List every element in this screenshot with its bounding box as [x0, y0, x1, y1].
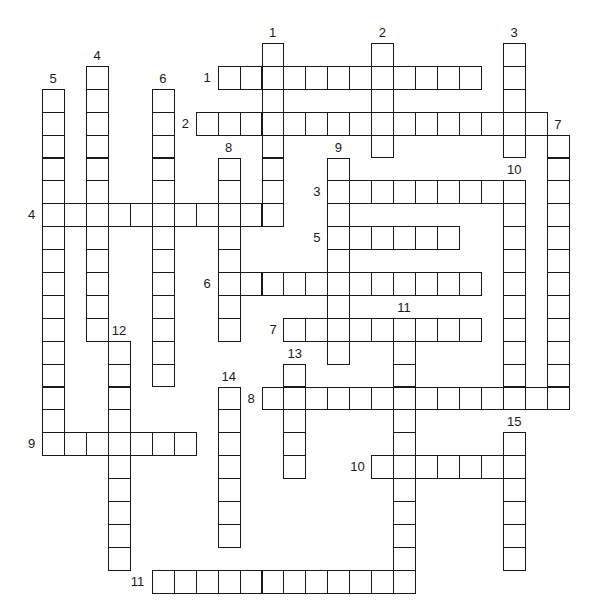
grid-cell[interactable]	[86, 180, 109, 204]
grid-cell[interactable]	[262, 135, 285, 159]
grid-cell[interactable]	[503, 112, 526, 136]
grid-cell[interactable]	[503, 203, 526, 227]
grid-cell[interactable]	[547, 158, 570, 182]
grid-cell[interactable]	[218, 387, 241, 411]
grid-cell[interactable]	[152, 318, 175, 342]
grid-cell[interactable]	[327, 112, 350, 136]
grid-cell[interactable]	[218, 158, 241, 182]
grid-cell[interactable]	[371, 570, 394, 594]
grid-cell[interactable]	[262, 66, 285, 90]
grid-cell[interactable]	[349, 112, 372, 136]
grid-cell[interactable]	[349, 180, 372, 204]
grid-cell[interactable]	[262, 570, 285, 594]
grid-cell[interactable]	[393, 180, 416, 204]
grid-cell[interactable]	[371, 112, 394, 136]
grid-cell[interactable]	[393, 501, 416, 525]
grid-cell[interactable]	[393, 66, 416, 90]
grid-cell[interactable]	[42, 295, 65, 319]
grid-cell[interactable]	[283, 112, 306, 136]
grid-cell[interactable]	[525, 387, 548, 411]
grid-cell[interactable]	[86, 432, 109, 456]
grid-cell[interactable]	[152, 112, 175, 136]
grid-cell[interactable]	[327, 570, 350, 594]
grid-cell[interactable]	[283, 570, 306, 594]
grid-cell[interactable]	[108, 409, 131, 433]
grid-cell[interactable]	[371, 318, 394, 342]
grid-cell[interactable]	[305, 66, 328, 90]
grid-cell[interactable]	[42, 272, 65, 296]
grid-cell[interactable]	[503, 455, 526, 479]
grid-cell[interactable]	[393, 272, 416, 296]
grid-cell[interactable]	[218, 272, 241, 296]
grid-cell[interactable]	[262, 180, 285, 204]
grid-cell[interactable]	[503, 89, 526, 113]
grid-cell[interactable]	[547, 180, 570, 204]
grid-cell[interactable]	[503, 66, 526, 90]
grid-cell[interactable]	[218, 226, 241, 250]
grid-cell[interactable]	[459, 318, 482, 342]
grid-cell[interactable]	[349, 272, 372, 296]
grid-cell[interactable]	[459, 112, 482, 136]
grid-cell[interactable]	[152, 341, 175, 365]
grid-cell[interactable]	[547, 387, 570, 411]
grid-cell[interactable]	[196, 112, 219, 136]
grid-cell[interactable]	[152, 295, 175, 319]
grid-cell[interactable]	[459, 455, 482, 479]
grid-cell[interactable]	[437, 112, 460, 136]
grid-cell[interactable]	[283, 387, 306, 411]
grid-cell[interactable]	[547, 295, 570, 319]
grid-cell[interactable]	[42, 89, 65, 113]
grid-cell[interactable]	[327, 295, 350, 319]
grid-cell[interactable]	[525, 112, 548, 136]
grid-cell[interactable]	[42, 158, 65, 182]
grid-cell[interactable]	[547, 249, 570, 273]
grid-cell[interactable]	[130, 203, 153, 227]
grid-cell[interactable]	[218, 478, 241, 502]
grid-cell[interactable]	[42, 318, 65, 342]
grid-cell[interactable]	[349, 318, 372, 342]
grid-cell[interactable]	[415, 112, 438, 136]
grid-cell[interactable]	[283, 364, 306, 388]
grid-cell[interactable]	[547, 318, 570, 342]
grid-cell[interactable]	[283, 272, 306, 296]
grid-cell[interactable]	[152, 249, 175, 273]
grid-cell[interactable]	[86, 272, 109, 296]
grid-cell[interactable]	[108, 501, 131, 525]
grid-cell[interactable]	[305, 570, 328, 594]
grid-cell[interactable]	[174, 570, 197, 594]
grid-cell[interactable]	[196, 570, 219, 594]
grid-cell[interactable]	[349, 387, 372, 411]
grid-cell[interactable]	[86, 89, 109, 113]
grid-cell[interactable]	[108, 432, 131, 456]
grid-cell[interactable]	[393, 318, 416, 342]
grid-cell[interactable]	[481, 180, 504, 204]
grid-cell[interactable]	[503, 272, 526, 296]
grid-cell[interactable]	[262, 387, 285, 411]
grid-cell[interactable]	[481, 387, 504, 411]
grid-cell[interactable]	[437, 387, 460, 411]
grid-cell[interactable]	[415, 180, 438, 204]
grid-cell[interactable]	[415, 318, 438, 342]
grid-cell[interactable]	[503, 318, 526, 342]
grid-cell[interactable]	[393, 364, 416, 388]
grid-cell[interactable]	[218, 455, 241, 479]
grid-cell[interactable]	[371, 387, 394, 411]
grid-cell[interactable]	[503, 478, 526, 502]
grid-cell[interactable]	[437, 272, 460, 296]
grid-cell[interactable]	[86, 112, 109, 136]
grid-cell[interactable]	[393, 478, 416, 502]
grid-cell[interactable]	[218, 66, 241, 90]
grid-cell[interactable]	[86, 318, 109, 342]
grid-cell[interactable]	[503, 180, 526, 204]
grid-cell[interactable]	[393, 226, 416, 250]
grid-cell[interactable]	[481, 455, 504, 479]
grid-cell[interactable]	[503, 432, 526, 456]
grid-cell[interactable]	[42, 226, 65, 250]
grid-cell[interactable]	[218, 432, 241, 456]
grid-cell[interactable]	[503, 135, 526, 159]
grid-cell[interactable]	[371, 455, 394, 479]
grid-cell[interactable]	[64, 203, 87, 227]
grid-cell[interactable]	[283, 409, 306, 433]
grid-cell[interactable]	[503, 524, 526, 548]
grid-cell[interactable]	[503, 295, 526, 319]
